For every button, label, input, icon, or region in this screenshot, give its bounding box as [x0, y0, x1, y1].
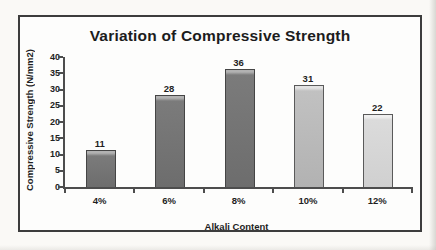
x-axis-category-label: 4%: [76, 195, 124, 206]
x-axis-tick-mark: [203, 187, 205, 193]
y-axis-tick-label: 35: [33, 68, 60, 79]
bar-value-label: 36: [219, 57, 259, 68]
x-axis-title: Alkali Content: [63, 221, 410, 232]
y-axis-tick-mark: [58, 186, 63, 188]
bar-8%: [225, 69, 255, 187]
plot-area: 0510152025303540114%286%368%3110%2212%: [63, 57, 412, 189]
y-axis-tick-mark: [58, 72, 63, 74]
bar-value-label: 31: [288, 73, 328, 84]
chart-title: Variation of Compressive Strength: [20, 27, 420, 45]
bar-4%: [86, 150, 116, 187]
y-axis-tick-label: 30: [33, 84, 60, 95]
x-axis-category-label: 10%: [284, 195, 332, 206]
bar-value-label: 22: [357, 102, 397, 113]
y-axis-tick-label: 20: [33, 117, 60, 128]
bar-12%: [363, 114, 393, 187]
x-axis-tick-mark: [272, 187, 274, 193]
y-axis-tick-mark: [58, 170, 63, 172]
y-axis-tick-mark: [58, 154, 63, 156]
y-axis-tick-label: 0: [33, 182, 60, 193]
x-axis-category-label: 6%: [145, 195, 193, 206]
bar-6%: [155, 95, 185, 187]
y-axis-tick-label: 15: [33, 133, 60, 144]
chart-frame: Variation of Compressive Strength Compre…: [18, 15, 422, 232]
y-axis-tick-label: 40: [33, 52, 60, 63]
bar-value-label: 28: [149, 83, 189, 94]
x-axis-tick-mark: [342, 187, 344, 193]
screenshot-canvas: Variation of Compressive Strength Compre…: [0, 0, 436, 250]
y-axis-tick-mark: [58, 121, 63, 123]
x-axis-tick-mark: [411, 187, 413, 193]
scan-bottom-shade: [0, 245, 436, 250]
y-axis-tick-label: 10: [33, 149, 60, 160]
y-axis-tick-label: 5: [33, 165, 60, 176]
x-axis-category-label: 8%: [215, 195, 263, 206]
x-axis-tick-mark: [64, 187, 66, 193]
y-axis-tick-mark: [58, 137, 63, 139]
x-axis-category-label: 12%: [353, 195, 401, 206]
y-axis-tick-mark: [58, 105, 63, 107]
bar-10%: [294, 85, 324, 187]
bar-value-label: 11: [80, 138, 120, 149]
scan-edge-shade: [429, 0, 436, 250]
y-axis-tick-label: 25: [33, 100, 60, 111]
y-axis-tick-mark: [58, 89, 63, 91]
y-axis-tick-mark: [58, 56, 63, 58]
x-axis-tick-mark: [133, 187, 135, 193]
